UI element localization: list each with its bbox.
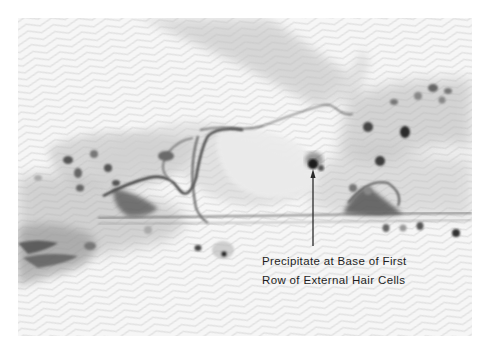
caption-line-2: Row of External Hair Cells [262,271,407,290]
figure-caption: Precipitate at Base of First Row of Exte… [262,252,407,290]
caption-line-1: Precipitate at Base of First [262,252,407,271]
